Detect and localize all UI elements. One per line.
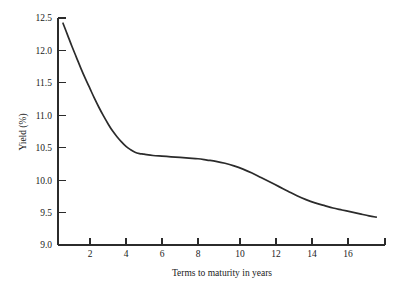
y-tick-label-9.0: 9.0 bbox=[40, 240, 52, 250]
y-tick-label-11.0: 11.0 bbox=[36, 111, 53, 121]
y-tick-label-10.0: 10.0 bbox=[35, 176, 52, 186]
x-tick-label-10: 10 bbox=[235, 249, 245, 259]
x-tick-label-8: 8 bbox=[196, 249, 201, 259]
y-tick-label-9.5: 9.5 bbox=[40, 208, 52, 218]
y-tick-label-12.0: 12.0 bbox=[35, 46, 52, 56]
x-tick-label-2: 2 bbox=[88, 249, 93, 259]
y-tick-labels: 12.5 12.0 11.5 11.0 10.5 10.0 9.5 9.0 bbox=[35, 13, 52, 250]
yield-curve-chart: 12.5 12.0 11.5 11.0 10.5 10.0 9.5 9.0 2 … bbox=[0, 0, 404, 290]
y-axis-title: Yield (%) bbox=[18, 113, 29, 150]
y-tick-label-11.5: 11.5 bbox=[36, 78, 53, 88]
y-tick-marks bbox=[58, 18, 66, 245]
x-axis-title: Terms to maturity in years bbox=[172, 268, 272, 278]
y-tick-label-10.5: 10.5 bbox=[35, 143, 52, 153]
x-tick-label-14: 14 bbox=[307, 249, 317, 259]
yield-curve-line bbox=[63, 23, 376, 217]
y-tick-label-12.5: 12.5 bbox=[35, 13, 52, 23]
x-tick-label-12: 12 bbox=[271, 249, 281, 259]
x-tick-labels: 2 4 6 8 10 12 14 16 bbox=[88, 249, 353, 259]
x-tick-label-6: 6 bbox=[160, 249, 165, 259]
chart-svg: 12.5 12.0 11.5 11.0 10.5 10.0 9.5 9.0 2 … bbox=[0, 0, 404, 290]
x-tick-marks bbox=[90, 238, 348, 245]
x-tick-label-16: 16 bbox=[343, 249, 353, 259]
x-tick-label-4: 4 bbox=[124, 249, 129, 259]
